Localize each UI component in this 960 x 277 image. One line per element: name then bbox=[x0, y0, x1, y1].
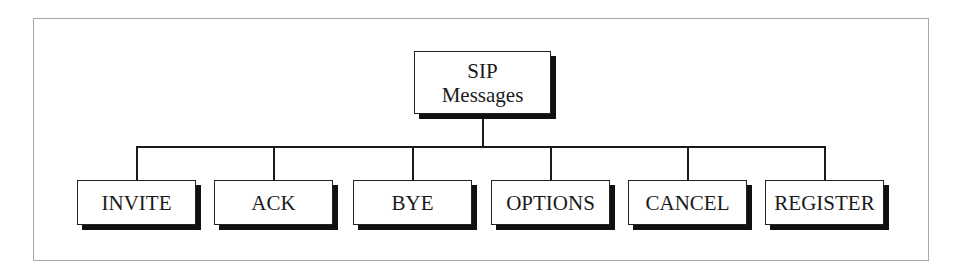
connector-invite bbox=[136, 146, 138, 180]
root-node-sip-messages: SIP Messages bbox=[414, 51, 551, 114]
node-label: ACK bbox=[251, 191, 295, 215]
node-label: CANCEL bbox=[646, 191, 730, 215]
node-options: OPTIONS bbox=[491, 180, 610, 225]
node-label: INVITE bbox=[102, 191, 172, 215]
connector-options bbox=[550, 146, 552, 180]
root-label-line2: Messages bbox=[442, 83, 524, 107]
node-cancel: CANCEL bbox=[628, 180, 747, 225]
connector-bye bbox=[412, 146, 414, 180]
connector-cancel bbox=[687, 146, 689, 180]
bus-line bbox=[136, 146, 826, 148]
connector-ack bbox=[273, 146, 275, 180]
node-label: BYE bbox=[392, 191, 434, 215]
connector-register bbox=[824, 146, 826, 180]
node-label: OPTIONS bbox=[506, 191, 595, 215]
node-bye: BYE bbox=[353, 180, 472, 225]
root-label-line1: SIP bbox=[467, 59, 497, 83]
node-invite: INVITE bbox=[77, 180, 196, 225]
node-register: REGISTER bbox=[765, 180, 884, 225]
root-connector bbox=[482, 114, 484, 148]
node-ack: ACK bbox=[214, 180, 333, 225]
node-label: REGISTER bbox=[774, 191, 874, 215]
